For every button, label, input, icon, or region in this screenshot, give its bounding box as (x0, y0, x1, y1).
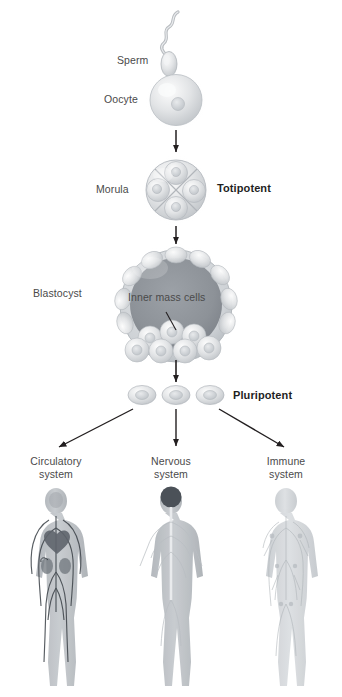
differentiation-arrows (59, 409, 284, 447)
label-circulatory-system: Circulatory system (11, 455, 101, 480)
immune-system-figure (263, 488, 318, 686)
label-totipotent: Totipotent (217, 182, 271, 194)
oocyte-illustration (144, 71, 208, 131)
label-pluripotent: Pluripotent (233, 389, 292, 401)
blastocyst-illustration (112, 242, 240, 370)
nervous-line-2: system (154, 468, 188, 480)
circulatory-line-1: Circulatory (30, 455, 81, 467)
label-inner-mass-cells: Inner mass cells (128, 291, 205, 303)
label-morula: Morula (96, 183, 129, 195)
label-blastocyst: Blastocyst (33, 287, 82, 299)
label-oocyte: Oocyte (104, 93, 138, 105)
morula-illustration (140, 154, 212, 226)
nervous-system-figure (140, 487, 203, 687)
nervous-line-1: Nervous (151, 455, 191, 467)
immune-line-1: Immune (267, 455, 306, 467)
label-sperm: Sperm (117, 54, 148, 66)
diagram-canvas: Sperm Oocyte Morula Totipotent Blastocys… (0, 0, 342, 697)
immune-line-2: system (269, 468, 303, 480)
brain (161, 487, 182, 508)
sperm-illustration (161, 12, 178, 77)
label-nervous-system: Nervous system (131, 455, 211, 480)
circulatory-line-2: system (39, 468, 73, 480)
circulatory-system-figure (31, 488, 88, 686)
label-immune-system: Immune system (245, 455, 327, 480)
diagram-illustration (0, 0, 342, 697)
pluripotent-cells-illustration (125, 384, 227, 408)
